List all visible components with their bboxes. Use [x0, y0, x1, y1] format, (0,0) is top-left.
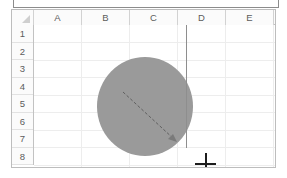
gridline-horizontal — [34, 165, 275, 166]
oval-shape[interactable] — [97, 57, 193, 156]
spreadsheet-screenshot: = = A B C D E 1 2 3 4 5 6 7 8 — [0, 0, 287, 178]
crosshair-vertical-stroke — [205, 153, 207, 168]
select-all-button[interactable] — [12, 10, 34, 25]
spreadsheet-grid: A B C D E 1 2 3 4 5 6 7 8 — [11, 9, 276, 168]
row-header-4[interactable]: 4 — [12, 78, 33, 96]
crosshair-cursor-icon — [195, 153, 216, 168]
select-all-triangle-icon — [22, 15, 30, 23]
row-header-7[interactable]: 7 — [12, 130, 33, 148]
row-header-1[interactable]: 1 — [12, 25, 33, 43]
column-header-a[interactable]: A — [34, 10, 82, 25]
row-header-5[interactable]: 5 — [12, 95, 33, 113]
row-header-6[interactable]: 6 — [12, 113, 33, 131]
gridline-horizontal — [34, 42, 275, 43]
column-header-e[interactable]: E — [226, 10, 274, 25]
row-header-column: 1 2 3 4 5 6 7 8 — [12, 25, 34, 165]
crosshair-horizontal-stroke — [195, 163, 216, 165]
column-header-b[interactable]: B — [82, 10, 130, 25]
row-header-3[interactable]: 3 — [12, 60, 33, 78]
row-header-2[interactable]: 2 — [12, 43, 33, 61]
formula-bar[interactable]: = = — [13, 0, 279, 8]
column-header-d[interactable]: D — [178, 10, 226, 25]
row-header-8[interactable]: 8 — [12, 148, 33, 166]
column-header-c[interactable]: C — [130, 10, 178, 25]
cell-canvas[interactable] — [34, 25, 275, 168]
column-header-row: A B C D E — [12, 10, 275, 25]
vertical-guide-line — [186, 25, 187, 148]
